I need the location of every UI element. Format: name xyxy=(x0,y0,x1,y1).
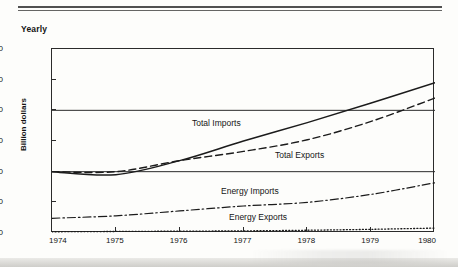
series-label-total-imports: Total Imports xyxy=(190,118,243,128)
x-tick-label: 1975 xyxy=(106,236,124,245)
x-tick-label: 1977 xyxy=(234,236,252,245)
series-label-energy-imports: Energy Imports xyxy=(219,186,281,196)
x-tick-label: 1979 xyxy=(361,236,379,245)
plot-area xyxy=(51,48,434,232)
series-line-total-imports xyxy=(52,83,435,175)
series-label-total-exports: Total Exports xyxy=(273,150,326,160)
y-axis-title: Billion dollars xyxy=(19,75,28,175)
chart-svg xyxy=(52,49,435,233)
y-tick-label: 250 xyxy=(0,74,3,83)
y-tick-label: 100 xyxy=(0,166,3,175)
series-label-energy-exports: Energy Exports xyxy=(227,212,289,222)
y-tick-label: 300 xyxy=(0,44,3,53)
y-tick-label: 50 xyxy=(0,197,3,206)
series-line-total-exports xyxy=(52,98,435,172)
frequency-label: Yearly xyxy=(21,24,47,34)
x-tick-label: 1980 xyxy=(418,236,436,245)
y-tick-label: 200 xyxy=(0,105,3,114)
rule-thick xyxy=(18,6,442,8)
y-tick-label: 0 xyxy=(0,228,3,237)
scan-edge-shadow xyxy=(0,258,458,267)
series-line-energy-exports xyxy=(52,228,435,232)
figure-page: Yearly Billion dollars 05010015020025030… xyxy=(0,0,458,267)
x-tick-label: 1976 xyxy=(170,236,188,245)
rule-thin xyxy=(18,10,442,11)
x-tick-label: 1978 xyxy=(297,236,315,245)
series-lines xyxy=(52,83,435,232)
x-tick-label: 1974 xyxy=(49,236,67,245)
y-tick-label: 150 xyxy=(0,136,3,145)
top-double-rule xyxy=(18,6,442,11)
